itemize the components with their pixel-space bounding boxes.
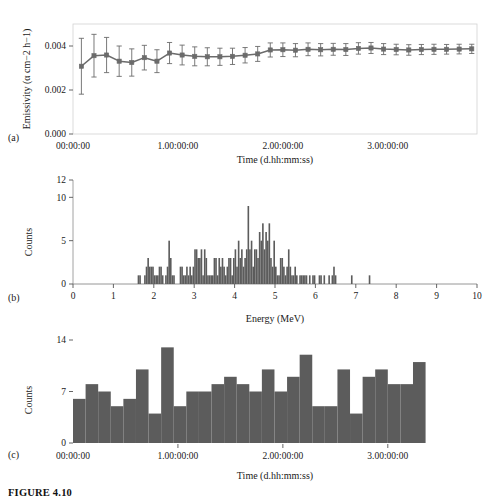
histogram-bar (212, 384, 225, 443)
data-marker (130, 60, 134, 64)
histogram-bar (283, 267, 285, 284)
y-tick-label: 7 (61, 387, 66, 397)
histogram-bar (244, 258, 246, 284)
panel-a-plot-frame (73, 24, 477, 134)
histogram-bar (277, 275, 279, 284)
histogram-bar (230, 258, 232, 284)
y-tick-label: 0.002 (45, 85, 67, 95)
histogram-bar (199, 258, 201, 284)
histogram-bar (287, 377, 300, 443)
histogram-bar (231, 275, 233, 284)
histogram-bar (281, 258, 283, 284)
x-tick-label: 2.00:00:00 (262, 141, 303, 151)
histogram-bar (202, 275, 204, 284)
histogram-bar (73, 399, 86, 443)
histogram-bar (249, 392, 262, 444)
histogram-bar (160, 267, 162, 284)
data-marker (394, 47, 398, 51)
data-marker (79, 64, 83, 68)
histogram-bar (259, 232, 261, 284)
histogram-bar (147, 258, 149, 284)
histogram-bar (375, 369, 388, 443)
y-tick-label: 12 (57, 175, 67, 185)
histogram-bar (152, 267, 154, 284)
data-marker (92, 54, 96, 58)
histogram-bar (170, 258, 172, 284)
histogram-bar (165, 275, 167, 284)
data-marker (344, 47, 348, 51)
histogram-bar (168, 241, 170, 284)
histogram-bar (369, 275, 371, 284)
histogram-bar (206, 258, 208, 284)
panel-a-y-axis-label: Emissivity (α cm−2 h−1) (21, 29, 33, 130)
x-tick-label: 9 (434, 291, 439, 301)
x-tick-label: 7 (353, 291, 358, 301)
histogram-bar (146, 267, 148, 284)
histogram-bar (138, 275, 140, 284)
histogram-bar (243, 267, 245, 284)
histogram-bar (299, 275, 301, 284)
histogram-bar (413, 362, 426, 443)
histogram-bar (314, 275, 316, 284)
histogram-bar (278, 275, 280, 284)
x-tick-label: 3 (192, 291, 197, 301)
histogram-bar (363, 377, 376, 443)
data-marker (356, 46, 360, 50)
y-tick-label: 0.000 (45, 129, 67, 139)
x-tick-label: 5 (273, 291, 278, 301)
histogram-bar (144, 275, 146, 284)
x-tick-label: 10 (472, 291, 482, 301)
histogram-bar (174, 406, 187, 443)
histogram-bar (262, 369, 275, 443)
panel-b-x-axis-label: Energy (MeV) (246, 313, 304, 325)
histogram-bar (149, 267, 151, 284)
histogram-bar (296, 275, 298, 284)
histogram-bar (351, 275, 353, 284)
histogram-bar (280, 258, 282, 284)
data-marker (167, 51, 171, 55)
emissivity-line (81, 48, 471, 66)
x-tick-label: 2 (151, 291, 156, 301)
y-tick-label: 0.004 (45, 41, 67, 51)
histogram-bar (270, 258, 272, 284)
data-marker (268, 48, 272, 52)
histogram-bar (191, 275, 193, 284)
panel-b-y-axis-label: Counts (23, 228, 34, 256)
data-marker (155, 59, 159, 63)
histogram-bar (323, 275, 325, 284)
histogram-bar (275, 267, 277, 284)
histogram-bar (290, 267, 292, 284)
histogram-bar (235, 249, 237, 284)
histogram-bar (220, 267, 222, 284)
histogram-bar (241, 249, 243, 284)
data-marker (142, 56, 146, 60)
histogram-bar (172, 275, 174, 284)
histogram-bar (319, 275, 321, 284)
histogram-bar (260, 241, 262, 284)
histogram-bar (333, 267, 335, 284)
x-tick-label: 6 (313, 291, 318, 301)
panel-a-y-axis: 0.0000.0020.004 (45, 41, 73, 139)
x-tick-label: 1.00:00:00 (157, 141, 198, 151)
histogram-bar (218, 258, 220, 284)
x-tick-label: 2.00:00:00 (262, 451, 303, 461)
histogram-bar (181, 267, 183, 284)
panel-a-x-axis: 00:00:001.00:00:002.00:00:003.00:00:00 (56, 141, 408, 151)
histogram-bar (228, 258, 230, 284)
histogram-bar (227, 267, 229, 284)
panel-c-counts-vs-time: 0714 00:00:001.00:00:002.00:00:003.00:00… (0, 330, 498, 490)
x-tick-label: 1 (111, 291, 116, 301)
data-marker (193, 54, 197, 58)
panel-b-y-axis: 051012 (57, 175, 74, 289)
histogram-bar (185, 275, 187, 284)
histogram-bar (186, 267, 188, 284)
data-marker (256, 52, 260, 56)
data-marker (117, 59, 121, 63)
x-tick-label: 1.00:00:00 (157, 451, 198, 461)
histogram-bar (183, 275, 185, 284)
x-tick-label: 00:00:00 (56, 141, 90, 151)
histogram-bar (214, 258, 216, 284)
histogram-bar (194, 249, 196, 284)
x-tick-label: 0 (71, 291, 76, 301)
histogram-bar (173, 275, 175, 284)
